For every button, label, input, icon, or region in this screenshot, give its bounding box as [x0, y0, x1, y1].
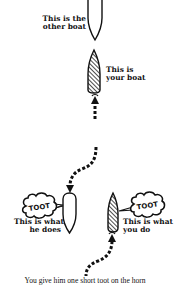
- other-boat-bottom-icon: [63, 193, 76, 233]
- other-boat-icon: [88, 0, 102, 40]
- your-boat-bottom-path-arrow-icon: [86, 233, 116, 277]
- he-does-label-line-2: he does: [14, 226, 61, 234]
- your-boat-toot-bubble: TOOT: [119, 192, 165, 217]
- other-boat-toot-bubble: TOOT: [23, 193, 63, 218]
- your-boat-label: This is your boat: [106, 66, 145, 82]
- your-boat-label-line-2: your boat: [106, 74, 145, 82]
- other-boat-path-arrow-icon: [66, 147, 96, 193]
- your-boat-path-arrow-icon: [91, 95, 99, 120]
- caption: You give him one short toot on the horn: [0, 276, 170, 285]
- your-boat-icon: [88, 50, 100, 93]
- other-boat-label: This is the other boat: [40, 15, 86, 31]
- other-boat-label-line-2: other boat: [40, 23, 86, 31]
- you-do-label-line-2: you do: [123, 226, 173, 234]
- you-do-label: This is what you do: [123, 218, 173, 234]
- your-boat-bottom-icon: [108, 193, 118, 232]
- he-does-label: This is what he does: [14, 218, 61, 234]
